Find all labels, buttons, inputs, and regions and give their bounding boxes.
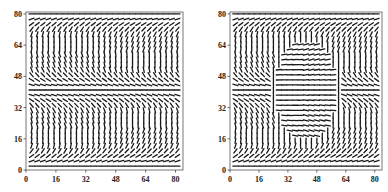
y-tick-label: 80 — [14, 10, 22, 19]
left-vector-field-plot: 0163248648001632486480 — [0, 0, 194, 192]
y-tick-label: 48 — [218, 72, 226, 81]
x-tick-label: 32 — [284, 175, 292, 184]
left-plot-panel: 0163248648001632486480 — [0, 0, 194, 192]
y-tick-label: 32 — [14, 104, 22, 113]
right-plot-panel: 0163248648001632486480 — [194, 0, 388, 192]
y-tick-label: 0 — [222, 166, 226, 175]
x-tick-label: 32 — [82, 175, 90, 184]
vector-segments — [29, 14, 180, 166]
x-tick-label: 16 — [52, 175, 60, 184]
x-tick-label: 64 — [342, 175, 350, 184]
y-tick-label: 32 — [218, 104, 226, 113]
vector-segments — [233, 14, 379, 166]
x-tick-label: 16 — [255, 175, 263, 184]
y-tick-label: 0 — [18, 166, 22, 175]
x-tick-label: 0 — [228, 175, 232, 184]
y-tick-label: 64 — [14, 41, 22, 50]
y-tick-label: 80 — [218, 10, 226, 19]
x-tick-label: 48 — [112, 175, 120, 184]
x-tick-label: 64 — [142, 175, 150, 184]
y-tick-label: 48 — [14, 72, 22, 81]
y-tick-label: 16 — [218, 135, 226, 144]
x-tick-label: 80 — [172, 175, 180, 184]
x-tick-label: 80 — [371, 175, 379, 184]
y-tick-label: 64 — [218, 41, 226, 50]
right-vector-field-plot: 0163248648001632486480 — [194, 0, 388, 192]
x-tick-label: 48 — [313, 175, 321, 184]
x-tick-label: 0 — [24, 175, 28, 184]
y-tick-label: 16 — [14, 135, 22, 144]
